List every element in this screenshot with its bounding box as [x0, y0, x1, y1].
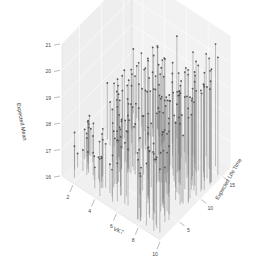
data-point	[161, 96, 163, 98]
data-point	[147, 58, 149, 60]
data-point	[157, 107, 159, 109]
data-point	[153, 55, 155, 57]
z-tick-label: 19	[45, 95, 51, 101]
data-point	[109, 101, 111, 103]
data-point	[185, 67, 187, 69]
data-point	[124, 142, 126, 144]
data-point	[171, 81, 173, 83]
data-point	[101, 133, 103, 135]
data-point	[163, 76, 165, 78]
y-tick-label: 5	[187, 227, 190, 233]
z-tick-label: 21	[45, 42, 51, 48]
data-point	[130, 69, 132, 71]
z-tick-label: 17	[45, 148, 51, 154]
data-point	[160, 152, 162, 154]
data-point	[160, 98, 162, 100]
data-point	[215, 43, 217, 45]
data-point	[168, 118, 170, 120]
data-point	[118, 93, 120, 95]
data-point	[88, 123, 90, 125]
x-tick-label: 2	[66, 194, 69, 200]
data-point	[127, 148, 129, 150]
data-point	[93, 155, 95, 157]
data-point	[181, 114, 183, 116]
data-point	[184, 96, 186, 98]
data-point	[140, 167, 142, 169]
data-point	[120, 136, 122, 138]
data-point	[162, 112, 164, 114]
data-point	[139, 137, 141, 139]
data-point	[140, 175, 142, 177]
data-point	[139, 172, 141, 174]
data-point	[126, 85, 128, 87]
data-point	[92, 135, 94, 137]
data-point	[109, 163, 111, 165]
data-point	[180, 92, 182, 94]
data-point	[158, 64, 160, 66]
z-tick-label: 16	[45, 174, 51, 180]
data-point	[135, 103, 137, 105]
data-point	[121, 120, 123, 122]
data-point	[155, 75, 157, 77]
data-point	[152, 71, 154, 73]
data-point	[155, 158, 157, 160]
data-point	[128, 79, 130, 81]
data-point	[205, 53, 207, 55]
data-point	[138, 149, 140, 151]
data-point	[146, 163, 148, 165]
3d-scatter-plot: 16171819202124681051015 VK7 Expected Lif…	[0, 0, 255, 268]
data-point	[153, 88, 155, 90]
data-point	[159, 168, 161, 170]
data-point	[193, 101, 195, 103]
data-point	[138, 83, 140, 85]
data-point	[133, 126, 135, 128]
data-point	[134, 75, 136, 77]
data-point	[149, 90, 151, 92]
data-point	[147, 126, 149, 128]
data-point	[192, 51, 194, 53]
data-point	[102, 139, 104, 141]
x-tick-label: 8	[132, 237, 135, 243]
data-point	[113, 82, 115, 84]
data-point	[201, 92, 203, 94]
data-point	[114, 137, 116, 139]
data-point	[166, 152, 168, 154]
data-point	[160, 67, 162, 69]
data-point	[121, 75, 123, 77]
data-point	[141, 88, 143, 90]
data-point	[145, 89, 147, 91]
data-point	[197, 65, 199, 67]
data-point	[147, 113, 149, 115]
data-point	[128, 103, 130, 105]
data-point	[144, 67, 146, 69]
data-point	[156, 156, 158, 158]
data-point	[159, 111, 161, 113]
data-point	[127, 98, 129, 100]
data-point	[82, 149, 84, 151]
data-point	[99, 158, 101, 160]
data-point	[179, 123, 181, 125]
data-point	[165, 96, 167, 98]
x-axis-label: VK7	[113, 225, 125, 235]
data-point	[189, 96, 191, 98]
data-point	[128, 119, 130, 121]
data-point	[204, 72, 206, 74]
data-point	[167, 100, 169, 102]
data-point	[217, 56, 219, 58]
data-point	[137, 152, 139, 154]
data-point	[116, 91, 118, 93]
data-point	[178, 117, 180, 119]
data-point	[74, 132, 76, 134]
data-point	[166, 133, 168, 135]
data-point	[191, 100, 193, 102]
data-point	[194, 71, 196, 73]
data-point	[127, 114, 129, 116]
data-point	[92, 123, 94, 125]
data-point	[153, 153, 155, 155]
data-point	[176, 103, 178, 105]
data-point	[175, 122, 177, 124]
data-point	[178, 94, 180, 96]
y-tick-label: 10	[208, 205, 214, 211]
data-point	[163, 131, 165, 133]
data-point	[194, 81, 196, 83]
